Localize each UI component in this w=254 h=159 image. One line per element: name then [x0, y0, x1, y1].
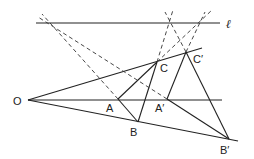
side-A'C' — [167, 52, 186, 99]
side-B'C' — [186, 52, 229, 139]
ext-A'B'-left — [38, 17, 167, 99]
ray-O-C — [28, 48, 202, 100]
ext-BC-up — [157, 10, 212, 62]
label-O: O — [13, 95, 22, 107]
label-A: A — [106, 102, 114, 114]
label-B-prime: B′ — [220, 144, 229, 156]
label-line-l: ℓ — [226, 17, 231, 31]
label-A-prime: A′ — [155, 102, 164, 114]
label-B: B — [130, 126, 137, 138]
ext-AC-up — [157, 10, 173, 62]
desargues-diagram: O A A′ B B′ C C′ ℓ — [0, 0, 254, 159]
label-C: C — [160, 62, 168, 74]
ext-A'C'-up — [165, 12, 186, 52]
label-C-prime: C′ — [193, 53, 203, 65]
